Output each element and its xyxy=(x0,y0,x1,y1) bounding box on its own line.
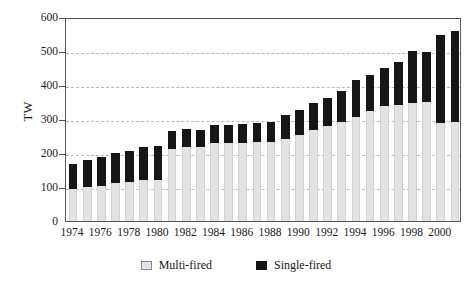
y-axis-tick-label: 600 xyxy=(20,12,58,24)
bar-segment-single-fired xyxy=(182,129,191,147)
y-axis-tick-label: 300 xyxy=(20,114,58,126)
x-axis-tick-label: 1992 xyxy=(315,226,338,240)
bar-stack xyxy=(125,19,134,221)
bar-stack xyxy=(337,19,346,221)
x-axis-tick-label: 1998 xyxy=(400,226,423,240)
bar-segment-multi-fired xyxy=(196,147,205,221)
bar-segment-single-fired xyxy=(125,151,134,182)
x-axis-tick-label: 1978 xyxy=(117,226,140,240)
bar-stack xyxy=(69,19,78,221)
bar-stack xyxy=(154,19,163,221)
bar-stack xyxy=(168,19,177,221)
bar-segment-single-fired xyxy=(253,123,262,142)
bar-stack xyxy=(210,19,219,221)
legend-item: Multi-fired xyxy=(141,258,212,273)
bar-segment-multi-fired xyxy=(323,126,332,221)
bar-stack xyxy=(394,19,403,221)
bar-stack xyxy=(111,19,120,221)
bar-segment-single-fired xyxy=(83,160,92,187)
bar-segment-multi-fired xyxy=(224,143,233,221)
bar-segment-multi-fired xyxy=(295,135,304,221)
y-axis-tick-label: 500 xyxy=(20,46,58,58)
bar-segment-multi-fired xyxy=(111,183,120,221)
bar-segment-single-fired xyxy=(281,115,290,139)
bar-stack xyxy=(139,19,148,221)
bar-segment-multi-fired xyxy=(436,123,445,221)
bar-segment-multi-fired xyxy=(168,149,177,221)
bar-segment-single-fired xyxy=(69,164,78,189)
y-axis-tick-label: 100 xyxy=(20,182,58,194)
bar-segment-multi-fired xyxy=(352,117,361,221)
x-axis-tick-label: 1974 xyxy=(61,226,84,240)
bar-segment-multi-fired xyxy=(139,180,148,221)
bar-segment-single-fired xyxy=(380,68,389,106)
bar-segment-single-fired xyxy=(451,31,460,122)
bar-segment-multi-fired xyxy=(182,147,191,221)
bar-stack xyxy=(323,19,332,221)
bar-segment-multi-fired xyxy=(238,143,247,221)
bar-stack xyxy=(83,19,92,221)
bar-segment-multi-fired xyxy=(408,103,417,221)
x-axis-tick-label: 2000 xyxy=(428,226,451,240)
bar-segment-multi-fired xyxy=(281,139,290,221)
bar-stack xyxy=(408,19,417,221)
bar-segment-multi-fired xyxy=(422,102,431,221)
bar-stack xyxy=(253,19,262,221)
x-axis-tick-label: 1994 xyxy=(343,226,366,240)
chart-legend: Multi-firedSingle-fired xyxy=(0,258,472,273)
bar-segment-single-fired xyxy=(210,125,219,143)
bar-stack xyxy=(295,19,304,221)
bar-segment-multi-fired xyxy=(154,180,163,221)
bar-group xyxy=(66,19,460,221)
bar-segment-single-fired xyxy=(408,51,417,103)
bar-segment-multi-fired xyxy=(69,189,78,221)
bar-segment-single-fired xyxy=(154,146,163,180)
x-axis-tick-label: 1984 xyxy=(202,226,225,240)
bar-segment-single-fired xyxy=(168,131,177,149)
bar-segment-single-fired xyxy=(139,147,148,180)
bar-segment-single-fired xyxy=(366,75,375,111)
bar-segment-single-fired xyxy=(422,52,431,102)
bar-segment-single-fired xyxy=(267,122,276,142)
bar-segment-single-fired xyxy=(323,98,332,127)
bar-stack xyxy=(238,19,247,221)
bar-stack xyxy=(422,19,431,221)
x-axis-tick-label: 1986 xyxy=(230,226,253,240)
x-axis-tick-label: 1980 xyxy=(145,226,168,240)
bar-stack xyxy=(281,19,290,221)
legend-item: Single-fired xyxy=(256,258,331,273)
bar-stack xyxy=(182,19,191,221)
y-axis-tick-label: 0 xyxy=(20,216,58,228)
bar-stack xyxy=(451,19,460,221)
x-axis-tick-label: 1990 xyxy=(287,226,310,240)
bar-segment-single-fired xyxy=(352,80,361,117)
x-axis-tick-label: 1996 xyxy=(372,226,395,240)
bar-segment-single-fired xyxy=(394,62,403,105)
x-axis-tick-group: 1974197619781980198219841986198819901992… xyxy=(65,226,461,244)
bar-stack xyxy=(196,19,205,221)
bar-segment-multi-fired xyxy=(253,142,262,221)
bar-segment-multi-fired xyxy=(380,106,389,221)
x-axis-tick-label: 1976 xyxy=(89,226,112,240)
bar-segment-multi-fired xyxy=(366,111,375,222)
bar-segment-single-fired xyxy=(196,130,205,147)
legend-label: Multi-fired xyxy=(159,258,212,273)
bar-segment-multi-fired xyxy=(394,105,403,221)
bar-segment-multi-fired xyxy=(83,187,92,221)
bar-segment-multi-fired xyxy=(210,143,219,221)
bar-segment-multi-fired xyxy=(125,182,134,221)
bar-segment-single-fired xyxy=(436,35,445,123)
bar-segment-multi-fired xyxy=(267,142,276,221)
legend-swatch-single-icon xyxy=(256,261,267,270)
bar-stack xyxy=(97,19,106,221)
bar-stack xyxy=(267,19,276,221)
bar-segment-single-fired xyxy=(337,91,346,122)
bar-stack xyxy=(436,19,445,221)
bar-segment-multi-fired xyxy=(97,186,106,221)
legend-label: Single-fired xyxy=(274,258,331,273)
bar-segment-single-fired xyxy=(224,125,233,144)
x-axis-tick-label: 1982 xyxy=(174,226,197,240)
bar-segment-single-fired xyxy=(295,110,304,136)
plot-area xyxy=(65,18,461,222)
bar-segment-single-fired xyxy=(238,124,247,143)
